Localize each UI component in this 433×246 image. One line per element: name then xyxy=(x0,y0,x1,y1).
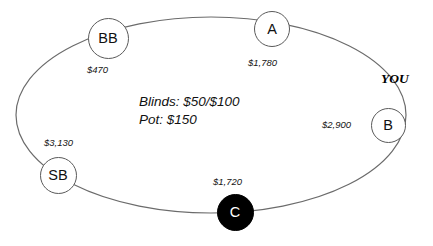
stack-amount-sb: $3,130 xyxy=(44,138,73,148)
stack-amount-a: $1,780 xyxy=(248,58,277,68)
seat-sb[interactable]: SB xyxy=(40,157,77,194)
seat-label-b: B xyxy=(383,118,393,133)
center-info: Blinds: $50/$100 Pot: $150 xyxy=(139,93,240,129)
seat-a[interactable]: A xyxy=(254,11,290,47)
seat-b[interactable]: B xyxy=(371,108,406,143)
pot-text: Pot: $150 xyxy=(139,111,240,129)
seat-label-c: C xyxy=(230,205,240,220)
seat-label-bb: BB xyxy=(98,31,117,46)
seat-label-a: A xyxy=(267,22,277,37)
seat-bb[interactable]: BB xyxy=(88,18,129,59)
you-marker: YOU xyxy=(381,72,409,86)
seat-c[interactable]: C xyxy=(217,194,254,231)
poker-table-diagram: BB$470A$1,780B$2,900SB$3,130C$1,720 Blin… xyxy=(0,0,433,246)
seat-label-sb: SB xyxy=(48,168,67,183)
stack-amount-bb: $470 xyxy=(87,65,108,75)
stack-amount-c: $1,720 xyxy=(213,177,242,187)
blinds-text: Blinds: $50/$100 xyxy=(139,93,240,111)
stack-amount-b: $2,900 xyxy=(322,120,351,130)
